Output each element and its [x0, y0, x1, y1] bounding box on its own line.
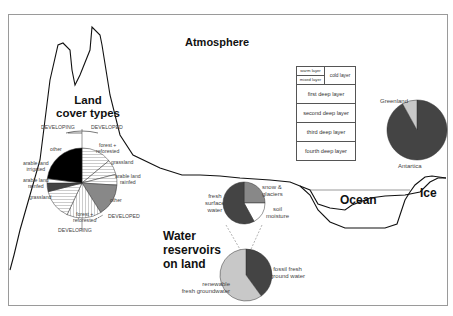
water-title-line2: reservoirs: [163, 243, 221, 257]
label-arable-irrigated-developing: arable landirrigated: [23, 160, 49, 172]
label-grassland-developed: grassland: [111, 159, 134, 165]
water-reservoirs-title: Water reservoirs on land: [163, 229, 221, 271]
ocean-title: Ocean: [340, 193, 377, 207]
label-grassland-developing: grassland: [29, 194, 52, 200]
fossil-groundwater-label: fossil freshground water: [270, 266, 305, 280]
second-deep-layer: second deep layer: [297, 104, 355, 123]
ice-title: Ice: [420, 186, 437, 200]
land-title-line1: Land: [60, 94, 116, 107]
third-deep-layer: third deep layer: [297, 123, 355, 142]
greenland-label: Greenland: [380, 98, 408, 104]
antartica-label: Antartica: [398, 163, 422, 169]
first-deep-layer: first deep layer: [297, 85, 355, 104]
water-title-line1: Water: [163, 229, 221, 243]
water-title-line3: on land: [163, 257, 221, 271]
warm-layer: warm layer: [297, 67, 324, 76]
land-cover-title: Land cover types: [60, 94, 116, 120]
label-forest-developing: forest +reforested: [73, 211, 96, 223]
snow-glaciers-label: snow &glaciers: [262, 184, 283, 198]
mixed-layer: mixed layer: [297, 76, 324, 84]
fresh-surface-water-label: freshsurfacewater: [205, 193, 225, 214]
atmosphere-title: Atmosphere: [185, 36, 249, 48]
developing-label-top: DEVELOPING: [41, 124, 75, 130]
renewable-groundwater-label: renewablefresh groundwater: [168, 281, 230, 295]
cold-layer: cold layer: [325, 67, 355, 84]
fourth-deep-layer: fourth deep layer: [297, 142, 355, 160]
soil-moisture-label: soilmoisture: [266, 206, 289, 220]
land-cover-pie: [47, 148, 117, 218]
surface-water-pie: [223, 182, 265, 224]
label-arable-rainfed-developed: arable landrainfed: [115, 173, 141, 185]
land-title-line2: cover types: [46, 107, 130, 120]
ocean-layers-table: warm layer mixed layer cold layer first …: [296, 66, 356, 161]
ice-pie: [387, 100, 447, 160]
label-arable-rainfed-developing: arable landrainfed: [23, 177, 49, 189]
pie-slice-other-developing-: [47, 148, 82, 183]
developing-label-bottom: DEVELOPING: [58, 227, 92, 233]
label-forest-developed: forest +reforested: [96, 142, 119, 154]
developed-arrow-bottom: [96, 215, 103, 219]
label-other-developing: other: [50, 146, 62, 152]
developed-label-bottom: DEVELOPED: [108, 213, 140, 219]
label-other-developed: other: [110, 197, 122, 203]
developed-label-top: DEVELOPED: [91, 124, 123, 130]
